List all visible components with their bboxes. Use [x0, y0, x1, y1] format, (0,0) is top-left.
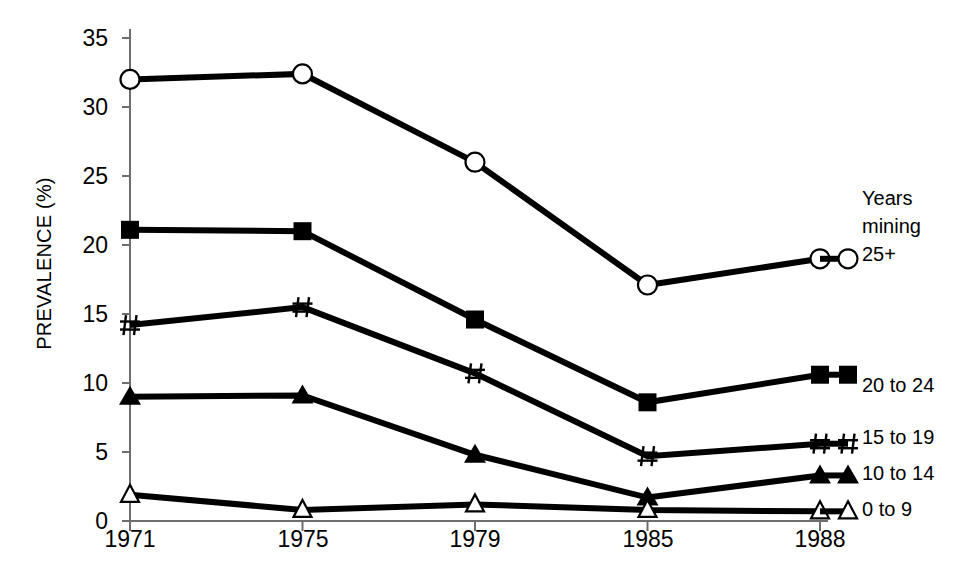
- series-line: [130, 74, 820, 285]
- marker-open-circle: [638, 276, 657, 295]
- series-10-to-14: [119, 384, 859, 505]
- prevalence-line-chart: PREVALENCE (%) 35 30 25 20 15 10 5 0 197…: [0, 0, 977, 584]
- series-25-: [121, 64, 858, 294]
- marker-open-circle: [293, 64, 312, 83]
- marker-filled-square: [121, 221, 139, 239]
- marker-filled-square: [466, 311, 484, 329]
- series-15-to-19: [120, 297, 858, 466]
- marker-filled-square: [839, 366, 857, 384]
- marker-filled-square: [294, 222, 312, 240]
- marker-filled-square: [639, 393, 657, 411]
- series-lines: [119, 64, 859, 518]
- series-line: [130, 307, 820, 456]
- series-0-to-9: [121, 485, 857, 519]
- marker-open-circle: [839, 249, 858, 268]
- marker-open-circle: [121, 70, 140, 89]
- plot-area: [0, 0, 977, 584]
- marker-open-circle: [466, 153, 485, 172]
